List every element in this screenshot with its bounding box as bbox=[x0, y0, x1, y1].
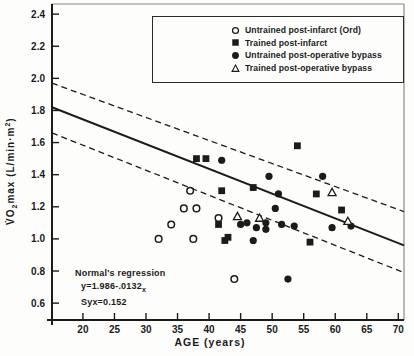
y-tick-label: 2.0 bbox=[31, 73, 45, 84]
y-tick-label: 1.6 bbox=[31, 137, 45, 148]
upper-confidence-band bbox=[52, 83, 404, 211]
data-point-square-filled bbox=[250, 184, 257, 191]
annotation-equation: y=1.986-.0132x bbox=[75, 280, 165, 296]
regression-annotation: Normal's regression y=1.986-.0132x Syx=0… bbox=[75, 267, 165, 308]
legend-label: Trained post-operative bypass bbox=[245, 63, 372, 73]
y-tick-label: 0.8 bbox=[31, 266, 45, 277]
data-point-circle-open bbox=[155, 236, 162, 243]
x-tick-label: 50 bbox=[267, 324, 279, 335]
y-tick-label: 1.4 bbox=[31, 169, 45, 180]
data-point-circle-open bbox=[190, 236, 197, 243]
data-point-circle-open bbox=[181, 205, 188, 212]
data-point-circle-filled bbox=[291, 222, 298, 229]
lower-confidence-band bbox=[52, 133, 404, 273]
data-point-circle-filled bbox=[243, 219, 250, 226]
data-point-circle-filled bbox=[265, 173, 272, 180]
data-point-square-filled bbox=[203, 155, 210, 162]
data-point-circle-filled bbox=[328, 224, 335, 231]
legend-box: Untrained post-infarct (Ord) Trained pos… bbox=[152, 16, 404, 83]
legend-label: Trained post-infarct bbox=[245, 38, 327, 48]
legend-item-trained-bypass: Trained post-operative bypass bbox=[231, 62, 403, 75]
data-point-circle-filled bbox=[275, 190, 282, 197]
data-point-circle-filled bbox=[253, 224, 260, 231]
data-point-triangle-open bbox=[233, 212, 241, 219]
data-point-circle-open bbox=[215, 215, 222, 222]
data-point-circle-filled bbox=[319, 173, 326, 180]
data-point-square-filled bbox=[215, 221, 222, 228]
y-tick-label: 1.2 bbox=[31, 201, 45, 212]
data-point-triangle-open bbox=[344, 217, 352, 224]
x-axis-label: AGE (years) bbox=[110, 336, 310, 348]
x-tick-label: 20 bbox=[77, 324, 89, 335]
data-point-triangle-open bbox=[256, 214, 264, 221]
legend-item-trained-post-infarct: Trained post-infarct bbox=[231, 37, 403, 50]
filled-square-icon bbox=[231, 38, 240, 47]
x-tick-label: 65 bbox=[361, 324, 373, 335]
data-point-circle-open bbox=[231, 276, 238, 283]
x-tick-label: 70 bbox=[393, 324, 405, 335]
data-point-circle-filled bbox=[272, 205, 279, 212]
data-point-square-filled bbox=[218, 187, 225, 194]
y-tick-label: 1.8 bbox=[31, 105, 45, 116]
data-point-circle-open bbox=[193, 205, 200, 212]
legend-item-untrained-post-infarct: Untrained post-infarct (Ord) bbox=[231, 24, 403, 37]
y-tick-label: 0.6 bbox=[31, 298, 45, 309]
x-tick-label: 30 bbox=[140, 324, 152, 335]
data-point-circle-filled bbox=[262, 226, 269, 233]
annotation-syx: Syx=0.152 bbox=[75, 296, 165, 309]
legend-label: Untrained post-infarct (Ord) bbox=[245, 25, 361, 35]
data-point-circle-open bbox=[168, 221, 175, 228]
data-point-circle-filled bbox=[237, 221, 244, 228]
open-circle-icon bbox=[231, 26, 240, 35]
data-point-circle-open bbox=[187, 187, 194, 194]
annotation-title: Normal's regression bbox=[75, 267, 165, 280]
legend-label: Untrained post-operative bypass bbox=[245, 50, 382, 60]
y-tick-label: 2.4 bbox=[31, 9, 45, 20]
data-point-triangle-open bbox=[328, 188, 336, 195]
data-point-square-filled bbox=[193, 155, 200, 162]
x-tick-label: 25 bbox=[109, 324, 121, 335]
y-axis-label: V̇O2max (L/min·m2) bbox=[4, 96, 18, 246]
x-tick-label: 55 bbox=[298, 324, 310, 335]
data-point-circle-filled bbox=[218, 157, 225, 164]
data-point-circle-filled bbox=[278, 221, 285, 228]
y-tick-label: 1.0 bbox=[31, 233, 45, 244]
x-tick-label: 35 bbox=[172, 324, 184, 335]
data-point-square-filled bbox=[313, 191, 320, 198]
x-tick-label: 60 bbox=[330, 324, 342, 335]
data-point-square-filled bbox=[225, 234, 232, 241]
filled-circle-icon bbox=[231, 51, 240, 60]
data-point-square-filled bbox=[307, 239, 314, 246]
x-tick-label: 45 bbox=[235, 324, 247, 335]
open-triangle-icon bbox=[231, 64, 240, 73]
x-tick-label: 40 bbox=[204, 324, 216, 335]
data-point-circle-filled bbox=[250, 237, 257, 244]
data-point-circle-filled bbox=[284, 275, 291, 282]
data-point-square-filled bbox=[338, 207, 345, 214]
legend-item-untrained-bypass: Untrained post-operative bypass bbox=[231, 49, 403, 62]
scatter-plot-figure: 0.60.81.01.21.41.61.82.02.22.42025303540… bbox=[0, 0, 414, 356]
y-tick-label: 2.2 bbox=[31, 41, 45, 52]
data-point-square-filled bbox=[294, 142, 301, 149]
